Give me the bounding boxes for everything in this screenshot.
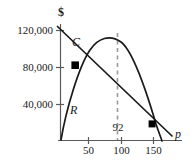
curve-label-R: R [70,104,77,116]
annotation-92: 92 [104,122,132,133]
y-tick-label-40000: 40,000 [0,99,53,110]
y-tick-label-80000: 80,000 [0,62,53,73]
chart-figure: $ 120,000 80,000 40,000 50 100 150 p C R… [0,0,192,163]
x-axis-label: p [175,128,181,140]
y-tick-label-120000: 120,000 [0,25,53,36]
x-tick-label-100: 100 [107,145,136,156]
marker-break-even-left [71,61,79,69]
y-axis-label: $ [58,6,64,18]
marker-break-even-right [149,120,156,127]
x-tick-label-50: 50 [74,145,103,156]
x-tick-label-150: 150 [139,145,168,156]
curve-label-C: C [72,36,80,48]
